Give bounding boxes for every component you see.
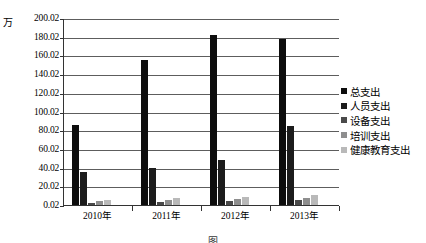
bar [149, 168, 156, 205]
legend-swatch [341, 88, 347, 94]
bar [96, 201, 103, 205]
y-axis-tick [60, 38, 64, 39]
legend-label: 总支出 [350, 84, 380, 99]
bar [165, 200, 172, 205]
bar [311, 195, 318, 205]
x-axis-tick [270, 206, 271, 211]
legend-swatch [341, 103, 347, 109]
figure-caption: 图 [0, 233, 426, 243]
y-axis-tick-label: 200.02 [0, 14, 59, 24]
y-axis-tick [60, 56, 64, 57]
legend-label: 设备支出 [350, 113, 390, 128]
y-axis-tick-label: 120.02 [0, 89, 59, 99]
y-axis-tick [60, 75, 64, 76]
bar [173, 198, 180, 205]
x-axis-tick [339, 206, 340, 211]
y-axis-tick [60, 94, 64, 95]
bar [88, 203, 95, 205]
y-axis-tick-label: 160.02 [0, 51, 59, 61]
y-axis-tick-label: 0.02 [0, 201, 59, 211]
bar [104, 200, 111, 205]
legend-item: 总支出 [341, 84, 410, 99]
y-axis-tick-label: 100.02 [0, 108, 59, 118]
x-axis-tick-label: 2010年 [68, 208, 128, 222]
y-axis-tick [60, 131, 64, 132]
x-axis-tick [132, 206, 133, 211]
chart-figure: 万 0.0220.0240.0260.0280.02100.02120.0214… [0, 0, 426, 243]
legend-item: 健康教育支出 [341, 142, 410, 157]
legend-swatch [341, 117, 347, 123]
legend-label: 健康教育支出 [350, 142, 410, 157]
bar [80, 172, 87, 205]
y-axis-tick-label: 80.02 [0, 126, 59, 136]
chart-legend: 总支出人员支出设备支出培训支出健康教育支出 [341, 84, 410, 157]
legend-item: 设备支出 [341, 113, 410, 128]
bar [226, 201, 233, 205]
bar-cluster [72, 19, 112, 205]
legend-item: 人员支出 [341, 99, 410, 114]
y-axis-tick [60, 206, 64, 207]
bar [72, 125, 79, 205]
bar [295, 200, 302, 205]
legend-swatch [341, 132, 347, 138]
legend-label: 人员支出 [350, 98, 390, 113]
bar-cluster [210, 19, 250, 205]
bar [303, 198, 310, 205]
legend-item: 培训支出 [341, 128, 410, 143]
legend-swatch [341, 147, 347, 153]
y-axis-tick-label: 20.02 [0, 182, 59, 192]
y-axis-tick [60, 187, 64, 188]
y-axis-tick-label: 60.02 [0, 145, 59, 155]
bar [279, 39, 286, 205]
x-axis-tick [201, 206, 202, 211]
y-axis-tick [60, 113, 64, 114]
y-axis-tick [60, 150, 64, 151]
bar [141, 60, 148, 205]
bar-cluster [279, 19, 319, 205]
y-axis-tick [60, 19, 64, 20]
y-axis-tick [60, 169, 64, 170]
x-axis-tick-label: 2011年 [137, 208, 197, 222]
bar [242, 197, 249, 205]
x-axis-tick-label: 2013年 [275, 208, 335, 222]
bar [157, 202, 164, 205]
plot-area [63, 19, 339, 206]
y-axis-tick-label: 40.02 [0, 164, 59, 174]
x-axis-tick-label: 2012年 [206, 208, 266, 222]
bar-cluster [141, 19, 181, 205]
legend-label: 培训支出 [350, 128, 390, 143]
y-axis-tick-label: 140.02 [0, 70, 59, 80]
bar [210, 35, 217, 205]
y-axis-tick-label: 180.02 [0, 33, 59, 43]
bar [287, 126, 294, 205]
bar [234, 199, 241, 205]
bar [218, 160, 225, 205]
